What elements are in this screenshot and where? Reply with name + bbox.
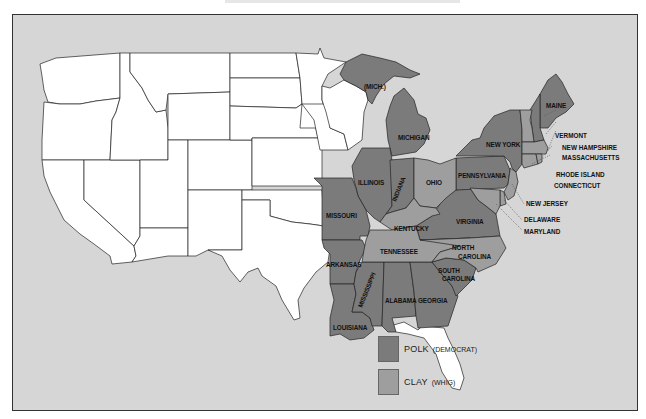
label-massachusetts: MASSACHUSETTS bbox=[562, 154, 620, 161]
state-north-dakota bbox=[230, 53, 300, 78]
legend-candidate-clay: CLAY bbox=[404, 377, 428, 387]
state-washington bbox=[40, 53, 120, 104]
label-alabama: ALABAMA bbox=[385, 297, 417, 304]
label-new-york: NEW YORK bbox=[486, 141, 521, 148]
label-connecticut: CONNECTICUT bbox=[554, 182, 601, 189]
label-louisiana: LOUISIANA bbox=[333, 324, 368, 331]
label-tennessee: TENNESSEE bbox=[380, 248, 419, 255]
label-mich-up: (MICH.) bbox=[364, 83, 386, 91]
state-connecticut bbox=[522, 154, 538, 168]
label-georgia: GEORGIA bbox=[418, 297, 448, 304]
label-new-hampshire: NEW HAMPSHIRE bbox=[562, 144, 618, 151]
label-maine: MAINE bbox=[546, 102, 567, 109]
state-maine bbox=[540, 74, 574, 128]
legend-item-polk: POLK (DEMOCRAT) bbox=[378, 336, 477, 362]
legend: POLK (DEMOCRAT) CLAY (WHIG) bbox=[378, 336, 477, 402]
label-north-carolina-2: CAROLINA bbox=[458, 253, 491, 260]
legend-candidate-polk: POLK bbox=[404, 344, 429, 354]
label-north-carolina-1: NORTH bbox=[452, 244, 475, 251]
label-virginia: VIRGINIA bbox=[456, 218, 484, 225]
state-massachusetts bbox=[522, 140, 548, 154]
election-map: (MICH.) MICHIGAN ILLINOIS INDIANA OHIO M… bbox=[0, 0, 646, 419]
label-south-carolina-1: SOUTH bbox=[438, 267, 460, 274]
polk-swatch bbox=[378, 336, 399, 362]
label-missouri: MISSOURI bbox=[326, 212, 357, 219]
label-illinois: ILLINOIS bbox=[358, 179, 385, 186]
state-arizona bbox=[132, 228, 188, 262]
state-south-dakota bbox=[230, 78, 302, 108]
label-new-jersey: NEW JERSEY bbox=[526, 200, 569, 207]
state-michigan bbox=[386, 88, 430, 156]
label-pennsylvania: PENNSYLVANIA bbox=[458, 172, 506, 179]
clay-swatch bbox=[378, 369, 399, 395]
legend-party-polk: (DEMOCRAT) bbox=[433, 346, 477, 353]
legend-party-clay: (WHIG) bbox=[432, 379, 456, 386]
label-michigan: MICHIGAN bbox=[398, 134, 430, 141]
state-kansas bbox=[252, 138, 322, 186]
state-colorado bbox=[188, 140, 252, 190]
state-wyoming bbox=[168, 92, 230, 140]
label-vermont: VERMONT bbox=[555, 132, 587, 139]
state-oregon bbox=[42, 98, 120, 160]
label-maryland: MARYLAND bbox=[524, 228, 561, 235]
label-delaware: DELAWARE bbox=[524, 216, 561, 223]
label-rhode-island: RHODE ISLAND bbox=[556, 171, 605, 178]
legend-item-clay: CLAY (WHIG) bbox=[378, 369, 477, 395]
label-ohio: OHIO bbox=[426, 179, 442, 186]
label-arkansas: ARKANSAS bbox=[326, 261, 362, 268]
label-kentucky: KENTUCKY bbox=[394, 225, 430, 232]
label-south-carolina-2: CAROLINA bbox=[442, 275, 475, 282]
state-new-mexico bbox=[188, 190, 242, 256]
